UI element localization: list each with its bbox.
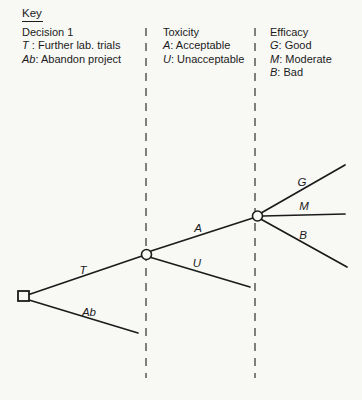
branch-label-Ab: Ab <box>81 306 97 318</box>
branch-label-M: M <box>299 200 309 212</box>
chance-node-2 <box>253 211 263 221</box>
decision-node <box>18 291 29 301</box>
decision-tree-svg: TAbAUGMB <box>0 0 362 400</box>
branch-M <box>263 214 345 216</box>
chance-node-1 <box>142 250 152 260</box>
branch-label-G: G <box>298 176 307 188</box>
branch-A <box>151 218 253 251</box>
branch-B <box>262 220 348 268</box>
branch-label-B: B <box>299 229 307 241</box>
branch-label-A: A <box>193 222 202 234</box>
branch-label-T: T <box>79 264 87 276</box>
branch-label-U: U <box>193 257 202 269</box>
decision-tree-page: Key Decision 1 T : Further lab. trials A… <box>0 0 362 400</box>
